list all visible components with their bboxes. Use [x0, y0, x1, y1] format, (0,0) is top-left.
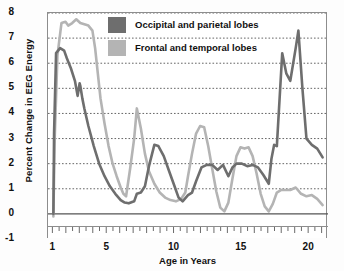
legend-swatch-occipital-parietal — [108, 17, 126, 33]
x-tick-label: 15 — [228, 241, 254, 252]
y-tick-label: 8 — [0, 6, 14, 17]
y-tick-label: -1 — [0, 232, 14, 243]
x-tick-label: 1 — [39, 241, 65, 252]
y-tick-label: 7 — [0, 31, 14, 42]
x-tick-label: 10 — [161, 241, 187, 252]
eeg-energy-line-chart: Percent Change in EEG Energy 876543210-1… — [0, 0, 344, 271]
legend-label-frontal-temporal: Frontal and temporal lobes — [135, 42, 257, 53]
y-tick-label: 4 — [0, 106, 14, 117]
x-tick-label: 20 — [295, 241, 321, 252]
y-tick-label: 0 — [0, 207, 14, 218]
y-axis-title: Percent Change in EEG Energy — [23, 26, 34, 196]
legend-swatch-frontal-temporal — [108, 40, 126, 56]
y-tick-label: 2 — [0, 157, 14, 168]
y-tick-label: 3 — [0, 132, 14, 143]
legend-label-occipital-parietal: Occipital and parietal lobes — [135, 19, 259, 30]
chart-legend: Occipital and parietal lobes Frontal and… — [108, 13, 259, 59]
y-tick-label: 6 — [0, 56, 14, 67]
legend-item-frontal-temporal: Frontal and temporal lobes — [108, 36, 259, 59]
y-tick-label: 1 — [0, 182, 14, 193]
x-axis-title: Age in Years — [47, 255, 328, 266]
legend-item-occipital-parietal: Occipital and parietal lobes — [108, 13, 259, 36]
y-tick-label: 5 — [0, 81, 14, 92]
x-axis-ticks — [47, 226, 328, 239]
x-tick-label: 5 — [93, 241, 119, 252]
